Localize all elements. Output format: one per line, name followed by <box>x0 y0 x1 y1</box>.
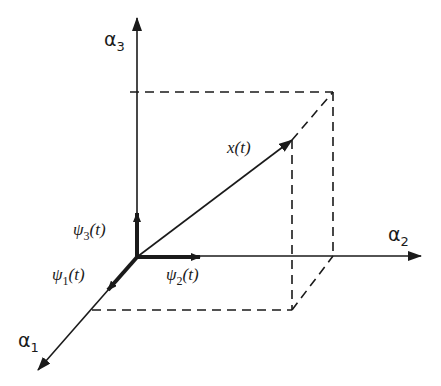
signal-space-diagram: α3 α2 α1 x(t) ψ3(t) ψ1(t) ψ2(t) <box>0 0 441 386</box>
x-vector <box>137 140 292 257</box>
psi2-label: ψ2(t) <box>166 265 199 288</box>
psi1-basis-vector <box>108 256 138 290</box>
psi3-label: ψ3(t) <box>73 220 106 243</box>
alpha1-label: α1 <box>18 329 39 355</box>
x-vector-label: x(t) <box>226 138 251 157</box>
alpha2-label: α2 <box>388 223 409 249</box>
psi1-label: ψ1(t) <box>52 265 85 288</box>
alpha3-label: α3 <box>104 28 125 54</box>
